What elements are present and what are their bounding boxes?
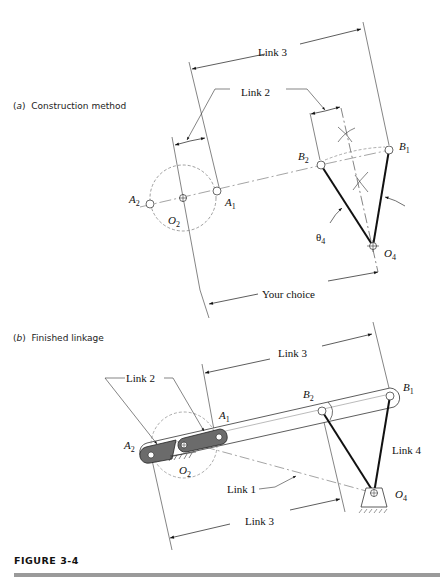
bisector-arc [353, 172, 368, 190]
label-link1: Link 1 [227, 483, 256, 495]
label-a1: A1 [224, 196, 236, 211]
link1-leader [259, 476, 296, 489]
label-link2-a: Link 2 [241, 86, 270, 98]
link2-dim-right-b [325, 107, 340, 111]
label-o2-b: O2 [179, 464, 191, 479]
label-link3-a: Link 3 [258, 46, 288, 58]
link2-dim-left-b [190, 138, 205, 141]
label-link3-b-top: Link 3 [278, 347, 308, 359]
rocker-link4-position-2 [322, 411, 374, 493]
figure-label: FIGURE 3-4 [14, 555, 79, 566]
b2-b1-chord [325, 151, 385, 164]
label-b1-b: B1 [403, 381, 414, 396]
label-b2-b: B2 [303, 388, 314, 403]
link2-dim-left-a [175, 141, 190, 145]
extension-line-a1 [189, 62, 219, 187]
theta4-arrow-left [330, 208, 342, 223]
link3-top-arrow-right [322, 334, 372, 346]
linkage-diagram: Link 3 Link 2 Your choice θ4 A2 O2 A1 B2… [0, 0, 440, 579]
label-your-choice: Your choice [262, 288, 315, 300]
link3-dimension-arrow-left [192, 54, 265, 69]
link2-leader-right-b [164, 378, 204, 431]
label-link2-b: Link 2 [126, 372, 155, 384]
pin-b1 [385, 146, 393, 154]
ground-pivot-o4 [367, 240, 379, 252]
extension-line-a2-b [152, 460, 172, 550]
label-o4: O4 [384, 247, 396, 262]
link3-dimension-arrow-right [300, 29, 361, 44]
extension-line-b2 [310, 113, 320, 160]
rocker-position-2 [321, 165, 373, 246]
label-theta4: θ4 [316, 231, 325, 246]
extension-line-b1 [363, 22, 389, 145]
ground-pivot-o2 [179, 194, 187, 202]
pin-b2 [317, 161, 325, 169]
rocker-position-1 [373, 150, 389, 246]
extension-line-a1-b [202, 364, 214, 430]
link2-leader-left [187, 89, 230, 140]
label-o2: O2 [168, 214, 180, 229]
your-choice-arrow-right [328, 272, 378, 281]
label-link3-b-bottom: Link 3 [245, 515, 275, 527]
link2-dim-right-a [311, 111, 325, 114]
link3-bottom-arrow-right [290, 499, 340, 510]
link2-leader-right [286, 89, 325, 110]
bisector-arc [355, 175, 368, 192]
theta4-arrow-right [385, 197, 405, 206]
label-o4-b: O4 [395, 488, 407, 503]
link3-top-arrow-left [205, 359, 270, 373]
pin-a2 [146, 200, 154, 208]
label-a1-b: A1 [218, 409, 230, 424]
ground-pivot-o4-b [359, 488, 387, 513]
label-b2: B2 [298, 150, 309, 165]
label-link4: Link 4 [392, 444, 422, 456]
link3-bottom-arrow-left [170, 524, 230, 538]
label-a2-b: A2 [123, 439, 135, 454]
extension-line-o2-low [200, 290, 209, 318]
label-a2: A2 [128, 193, 140, 208]
pin-b2-b [318, 407, 326, 415]
extension-line-b2-b [323, 418, 345, 512]
link2-leader-left-b [105, 378, 157, 444]
your-choice-arrow-left [209, 294, 258, 304]
b-arc [325, 147, 385, 160]
figure-rule [14, 573, 440, 577]
coupler-link3 [140, 388, 400, 461]
construction-method-diagram [140, 22, 405, 318]
extension-line-o2 [172, 137, 200, 290]
pin-b1-b [386, 392, 394, 400]
pin-a1 [213, 187, 221, 195]
label-b1: B1 [399, 140, 410, 155]
extension-line-b1-b [373, 322, 389, 388]
